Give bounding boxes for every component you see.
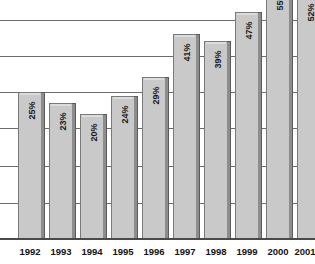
bar-value-label-1997: 41% bbox=[182, 43, 191, 61]
x-axis-line bbox=[0, 238, 315, 240]
bar-shadow-1999 bbox=[258, 12, 262, 240]
bar-shadow-2000 bbox=[289, 0, 293, 240]
bar-group-2001: 52% bbox=[297, 0, 315, 240]
bar-group-1996: 29% bbox=[142, 77, 169, 240]
x-axis-labels: 1992 1993 1994 1995 1996 1997 1998 1999 … bbox=[0, 242, 315, 264]
bar-value-label-2000: 55% bbox=[275, 0, 284, 11]
bar-shadow-1994 bbox=[103, 114, 107, 240]
bar-shadow-1998 bbox=[227, 41, 231, 240]
bar-group-1997: 41% bbox=[173, 34, 200, 240]
bar-highlight bbox=[20, 93, 40, 95]
bar-highlight bbox=[237, 13, 257, 15]
bar-shadow-1996 bbox=[165, 77, 169, 240]
bar-highlight bbox=[113, 97, 133, 99]
bar-highlight bbox=[82, 115, 102, 117]
bar-value-label-1992: 25% bbox=[27, 101, 36, 119]
bar-shadow-1997 bbox=[196, 34, 200, 240]
bar-group-1999: 47% bbox=[235, 12, 262, 240]
bar-highlight bbox=[144, 78, 164, 80]
bar-value-label-1996: 29% bbox=[151, 86, 160, 104]
plot-area: 25% 23% 20% 24% bbox=[0, 0, 315, 240]
bar-value-label-1993: 23% bbox=[58, 112, 67, 130]
bar-series: 25% 23% 20% 24% bbox=[0, 0, 315, 240]
bar-value-label-1998: 39% bbox=[213, 50, 222, 68]
bar-shadow-1993 bbox=[72, 103, 76, 240]
bar-group-1998: 39% bbox=[204, 41, 231, 240]
bar-group-1992: 25% bbox=[18, 92, 45, 240]
bar-2001[interactable] bbox=[297, 0, 315, 240]
bar-shadow-1995 bbox=[134, 96, 138, 240]
x-tick-2001: 2001 bbox=[290, 246, 315, 257]
bar-shadow-1992 bbox=[41, 92, 45, 240]
bar-value-label-1994: 20% bbox=[89, 123, 98, 141]
bar-chart: 25% 23% 20% 24% bbox=[0, 0, 315, 264]
bar-group-1994: 20% bbox=[80, 114, 107, 240]
bar-highlight bbox=[51, 104, 71, 106]
bar-value-label-1995: 24% bbox=[120, 105, 129, 123]
bar-highlight bbox=[206, 42, 226, 44]
bar-group-1995: 24% bbox=[111, 96, 138, 240]
bar-group-1993: 23% bbox=[49, 103, 76, 240]
bar-value-label-1999: 47% bbox=[244, 21, 253, 39]
bar-highlight bbox=[175, 35, 195, 37]
bar-group-2000: 55% bbox=[266, 0, 293, 240]
bar-value-label-2001: 52% bbox=[306, 3, 315, 21]
